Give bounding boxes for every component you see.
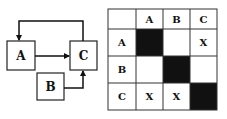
edge-c-to-a <box>19 21 83 41</box>
graph: A C B <box>7 21 97 100</box>
adjacency-matrix: A B C A B C X X X <box>108 9 217 110</box>
node-b-label: B <box>45 80 55 94</box>
col-header-b: B <box>172 14 180 25</box>
cell-c-b: X <box>173 91 181 102</box>
cell-a-c: X <box>200 37 208 48</box>
row-header-c: C <box>118 91 126 102</box>
figure: A C B A B C A B C <box>0 0 227 119</box>
diag-cell-a <box>136 29 163 56</box>
cell-c-a: X <box>146 91 154 102</box>
col-header-a: A <box>145 14 154 25</box>
diag-cell-b <box>163 56 190 83</box>
node-c-label: C <box>79 49 89 63</box>
diag-cell-c <box>190 83 217 110</box>
row-header-b: B <box>118 64 126 75</box>
edge-b-to-c <box>64 71 83 88</box>
col-header-c: C <box>200 14 208 25</box>
node-a-label: A <box>15 49 26 63</box>
row-header-a: A <box>117 37 126 48</box>
